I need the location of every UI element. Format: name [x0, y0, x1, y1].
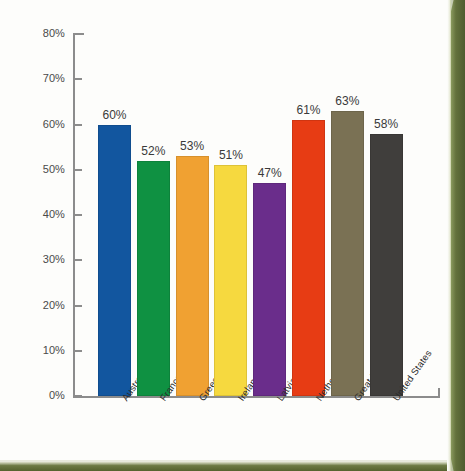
bar-rect[interactable]	[253, 183, 286, 396]
bar-value-label: 61%	[296, 103, 320, 117]
bar-item[interactable]: 47%Latvia	[253, 183, 286, 396]
bar-rect[interactable]	[331, 111, 364, 396]
bar-item[interactable]: 58%United States	[370, 134, 403, 396]
bar-item[interactable]: 53%Greece	[176, 156, 209, 396]
bar-chart: 0%10%20%30%40%50%60%70%80% 60%Australia5…	[0, 0, 451, 462]
chart-page: 0%10%20%30%40%50%60%70%80% 60%Australia5…	[0, 0, 465, 471]
bar-value-label: 47%	[258, 166, 282, 180]
bar-value-label: 60%	[102, 108, 126, 122]
bar-rect[interactable]	[176, 156, 209, 396]
page-edge-bottom	[0, 462, 465, 471]
bar-item[interactable]: 61%Netherlands	[292, 120, 325, 396]
page-edge-right	[451, 0, 465, 471]
bar-rect[interactable]	[98, 125, 131, 397]
bar-rect[interactable]	[214, 165, 247, 396]
bar-value-label: 63%	[335, 94, 359, 108]
bar-rect[interactable]	[370, 134, 403, 396]
bar-item[interactable]: 63%Great Britain	[331, 111, 364, 396]
bar-value-label: 53%	[180, 139, 204, 153]
bar-value-label: 58%	[374, 117, 398, 131]
bar-item[interactable]: 51%Ireland	[214, 165, 247, 396]
bar-item[interactable]: 52%France	[137, 161, 170, 396]
bar-item[interactable]: 60%Australia	[98, 125, 131, 397]
bar-rect[interactable]	[137, 161, 170, 396]
bar-series: 60%Australia52%France53%Greece51%Ireland…	[0, 0, 451, 462]
bar-rect[interactable]	[292, 120, 325, 396]
bar-value-label: 51%	[219, 148, 243, 162]
bar-value-label: 52%	[141, 144, 165, 158]
